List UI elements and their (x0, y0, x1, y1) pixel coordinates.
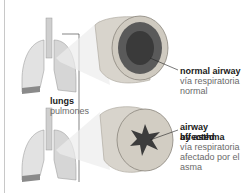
lungs-label-spanish: pulmones (50, 106, 89, 116)
asthma-airway-label-spanish-2: afectado por el (180, 152, 240, 162)
asthma-airway-label-spanish-3: asma (180, 162, 202, 172)
asthma-airway-label-spanish-1: vía respiratoria (180, 142, 240, 152)
lungs-label: lungs (50, 96, 74, 106)
asthma-airway-diagram (0, 0, 243, 193)
asthma-airway-label-2: by asthma (180, 132, 225, 142)
normal-airway-label: normal airway (180, 66, 241, 76)
normal-airway-label-spanish-2: normal (180, 86, 208, 96)
normal-airway-label-spanish-1: vía respiratoria (180, 76, 240, 86)
